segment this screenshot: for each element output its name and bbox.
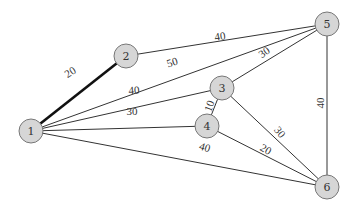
edge-layer: [31, 24, 327, 187]
node-layer: 123456: [19, 12, 339, 199]
edge-2-5: [126, 24, 327, 56]
edge-weight-3-4: 10: [201, 98, 216, 113]
node-2: 2: [114, 44, 138, 68]
edge-weight-5-6: 40: [314, 97, 326, 109]
edge-1-4: [31, 126, 207, 131]
edge-weight-1-2: 20: [62, 64, 78, 80]
node-5: 5: [315, 12, 339, 36]
edge-1-6: [31, 131, 327, 187]
edge-1-5: [31, 24, 327, 131]
node-1: 1: [19, 119, 43, 143]
edge-weight-1-5: 50: [165, 55, 180, 70]
node-label: 1: [28, 125, 35, 138]
edge-weight-1-3: 40: [128, 84, 140, 97]
edge-weight-4-6: 20: [258, 141, 274, 157]
node-label: 5: [324, 18, 331, 31]
node-label: 4: [204, 120, 211, 133]
node-4: 4: [195, 114, 219, 138]
edge-1-2: [31, 56, 126, 131]
node-label: 6: [324, 181, 331, 194]
edge-weight-1-4: 30: [127, 105, 139, 117]
node-label: 3: [219, 82, 226, 95]
edge-3-6: [222, 88, 327, 187]
graph-diagram: 2050403040403010302040 123456: [0, 0, 359, 215]
node-label: 2: [123, 50, 130, 63]
node-3: 3: [210, 76, 234, 100]
edge-weight-1-6: 40: [198, 140, 213, 155]
node-6: 6: [315, 175, 339, 199]
edge-weight-2-5: 40: [214, 29, 227, 42]
edge-weight-3-5: 30: [256, 44, 272, 60]
